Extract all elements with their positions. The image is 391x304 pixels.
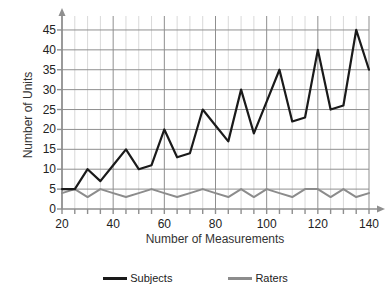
- x-tick-label: 100: [257, 217, 277, 231]
- legend-item-subjects: Subjects: [103, 272, 172, 284]
- y-tick-label: 35: [28, 63, 56, 77]
- y-tick-label: 0: [28, 202, 56, 216]
- legend-item-raters: Raters: [228, 272, 287, 284]
- y-tick-label: 5: [28, 182, 56, 196]
- x-tick-label: 140: [359, 217, 379, 231]
- x-tick-label: 40: [106, 217, 119, 231]
- y-tick-label: 45: [28, 23, 56, 37]
- y-tick-label: 15: [28, 142, 56, 156]
- y-tick-label: 30: [28, 83, 56, 97]
- x-tick-label: 120: [308, 217, 328, 231]
- y-tick-label: 25: [28, 103, 56, 117]
- x-tick-label: 80: [209, 217, 222, 231]
- legend-line-icon-raters: [228, 277, 252, 280]
- y-tick-label: 20: [28, 122, 56, 136]
- legend-line-icon-subjects: [103, 277, 127, 280]
- x-tick-label: 60: [158, 217, 171, 231]
- y-tick-label: 10: [28, 162, 56, 176]
- chart-legend: Subjects Raters: [0, 272, 391, 284]
- chart-figure: Number of Units Number of Measurements 0…: [0, 0, 391, 304]
- legend-label-subjects: Subjects: [130, 272, 172, 284]
- major-gridlines: [62, 16, 369, 209]
- y-tick-label: 40: [28, 43, 56, 57]
- x-tick-label: 20: [55, 217, 68, 231]
- legend-label-raters: Raters: [255, 272, 287, 284]
- axis-lines: [59, 8, 386, 213]
